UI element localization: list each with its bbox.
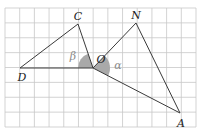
- point-label-n: N: [130, 9, 141, 22]
- figure-canvas: CNODA βα: [0, 0, 200, 134]
- point-label-c: C: [74, 10, 83, 23]
- point-label-o: O: [96, 53, 105, 66]
- point-label-a: A: [176, 117, 185, 130]
- beta-label: β: [69, 50, 76, 63]
- geometry-figure: CNODA βα: [0, 0, 200, 134]
- point-label-d: D: [17, 71, 27, 84]
- segment-na: [136, 23, 180, 113]
- alpha-label: α: [114, 59, 122, 72]
